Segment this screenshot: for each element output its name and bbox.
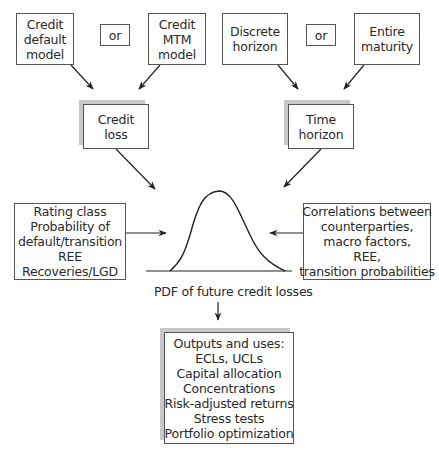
credit-loss-box: Credit loss (83, 104, 149, 149)
credit-default-model-line-1: Credit (27, 17, 63, 32)
entire-maturity-line-1: Entire (369, 24, 405, 39)
or-label-right: or (315, 28, 327, 43)
rating-inputs-box: Rating class Probability of default/tran… (14, 203, 126, 280)
outputs-line-1: Outputs and uses: (174, 336, 285, 351)
credit-mtm-model-line-1: Credit (159, 17, 195, 32)
outputs-box: Outputs and uses: ECLs, UCLs Capital all… (164, 332, 294, 444)
rating-inputs-line-1: Rating class (34, 204, 107, 219)
or-box-right: or (306, 24, 336, 46)
credit-default-model-line-3: model (26, 47, 64, 62)
rating-inputs-line-4: REE (58, 249, 82, 264)
time-horizon-line-1: Time (306, 112, 336, 127)
correlations-line-4: REE, (353, 249, 381, 264)
outputs-line-3: Capital allocation (177, 366, 282, 381)
or-box-left: or (100, 24, 130, 46)
correlations-box: Correlations between counterparties, mac… (303, 203, 431, 280)
arrow-default-to-loss (71, 65, 93, 89)
credit-default-model-line-2: default (24, 32, 67, 47)
credit-loss-line-2: loss (104, 127, 127, 142)
arrow-horizon-to-pdf (284, 149, 321, 187)
discrete-horizon-box: Discrete horizon (222, 13, 288, 65)
outputs-line-2: ECLs, UCLs (195, 351, 262, 366)
discrete-horizon-line-2: horizon (233, 39, 278, 54)
arrow-discrete-to-horizon (278, 65, 298, 89)
entire-maturity-box: Entire maturity (354, 13, 420, 65)
arrow-entire-to-horizon (344, 65, 364, 89)
outputs-line-4: Concentrations (183, 381, 275, 396)
arrow-mtm-to-loss (139, 65, 160, 89)
credit-mtm-model-box: Credit MTM model (148, 13, 206, 65)
credit-mtm-model-line-2: MTM (163, 32, 192, 47)
correlations-line-5: transition probabilities (299, 264, 435, 279)
arrow-loss-to-pdf (116, 149, 155, 189)
outputs-line-7: Portfolio optimization (165, 426, 294, 441)
or-label-left: or (109, 28, 121, 43)
credit-default-model-box: Credit default model (16, 13, 74, 65)
credit-loss-line-1: Credit (98, 112, 134, 127)
discrete-horizon-line-1: Discrete (230, 24, 280, 39)
time-horizon-box: Time horizon (288, 104, 354, 149)
pdf-caption: PDF of future credit losses (154, 284, 313, 299)
correlations-line-3: macro factors, (323, 234, 411, 249)
rating-inputs-line-2: Probability of (30, 219, 109, 234)
rating-inputs-line-3: default/transition (18, 234, 122, 249)
credit-mtm-model-line-3: model (158, 47, 196, 62)
correlations-line-1: Correlations between (302, 204, 431, 219)
outputs-line-5: Risk-adjusted returns (165, 396, 294, 411)
correlations-line-2: counterparties, (321, 219, 413, 234)
entire-maturity-line-2: maturity (361, 39, 413, 54)
pdf-curve (170, 191, 285, 271)
rating-inputs-line-5: Recoveries/LGD (22, 264, 118, 279)
time-horizon-line-2: horizon (299, 127, 344, 142)
outputs-line-6: Stress tests (194, 411, 265, 426)
